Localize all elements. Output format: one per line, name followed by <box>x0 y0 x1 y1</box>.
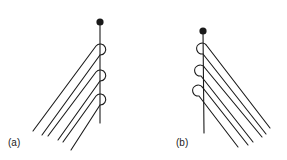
knob-b <box>199 27 206 34</box>
stem-b <box>203 31 204 133</box>
diagram-canvas <box>0 0 287 160</box>
loop-b-1 <box>197 43 270 134</box>
panel-label-a: (a) <box>8 137 20 148</box>
knob-a <box>96 18 103 25</box>
loop-a-2 <box>48 70 106 140</box>
panel-b <box>193 27 270 147</box>
panel-a <box>33 18 106 150</box>
loop-b-3 <box>193 85 248 147</box>
panel-label-b: (b) <box>176 137 188 148</box>
loop-a-1 <box>33 44 106 135</box>
